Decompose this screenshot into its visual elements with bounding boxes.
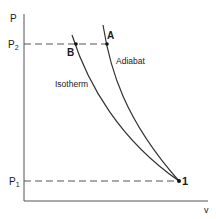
p2-label: P2 (8, 39, 19, 51)
p1-label: P1 (9, 176, 20, 188)
point-a-label: A (107, 30, 114, 41)
point-1-label: 1 (182, 175, 188, 187)
adiabat-label: Adiabat (116, 56, 145, 66)
x-axis-label: v (204, 205, 209, 215)
point-1 (177, 179, 181, 183)
point-b (74, 42, 78, 46)
point-a (105, 42, 109, 46)
point-b-label: B (67, 47, 74, 58)
adiabat-curve (103, 25, 179, 181)
isotherm-label: Isotherm (55, 79, 88, 89)
pv-diagram: P v P2 P1 A B 1 Adiabat Isotherm (0, 0, 216, 219)
y-axis-label: P (10, 13, 17, 24)
